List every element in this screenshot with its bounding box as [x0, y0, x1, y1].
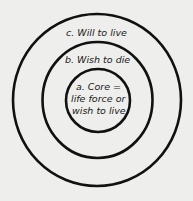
label-core-line-1: a. Core = [76, 81, 121, 92]
label-will-to-live: c. Will to live [66, 27, 127, 38]
label-wish-to-die: b. Wish to die [65, 54, 130, 65]
label-core-line-3: wish to live [72, 105, 126, 116]
label-core-line-2: life force or [71, 93, 125, 104]
